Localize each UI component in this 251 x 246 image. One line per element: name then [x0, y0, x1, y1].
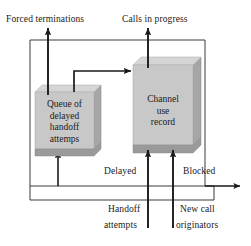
channel-box-text: Channeluserecord	[133, 94, 193, 129]
blocked-label: Blocked	[183, 166, 215, 177]
queue-box-text: Queue ofdelayedhandoffattemps	[35, 99, 94, 145]
forced-terminations-label: Forced terminations	[6, 14, 84, 25]
box-caption-line: delayed	[35, 111, 94, 123]
box-caption-line: attemps	[35, 134, 94, 146]
calls-in-progress-label: Calls in progress	[122, 14, 188, 25]
new-call-originators-label-line2: originators	[176, 220, 218, 231]
box-caption-line: record	[133, 117, 193, 129]
box-caption-line: handoff	[35, 122, 94, 134]
box-caption-line: use	[133, 106, 193, 118]
box-caption-line: Channel	[133, 94, 193, 106]
new-call-originators-label-line1: New call	[180, 204, 215, 215]
box-caption-line: Queue of	[35, 99, 94, 111]
handoff-attempts-label-line2: attempts	[104, 220, 137, 231]
delayed-label: Delayed	[104, 166, 136, 177]
handoff-attempts-label-line1: Handoff	[108, 204, 140, 215]
